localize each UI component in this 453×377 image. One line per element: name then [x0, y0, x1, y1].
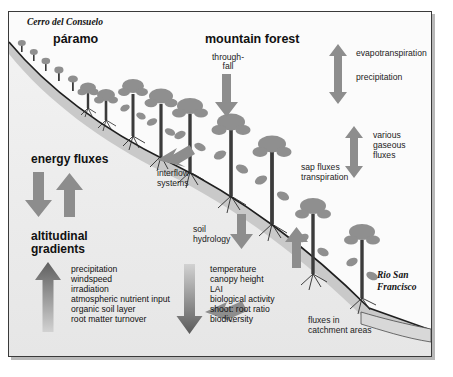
place-label-rio-san-line2: Francisco — [377, 282, 417, 293]
label-soil-hydrology-line2: hydrology — [193, 235, 230, 245]
gradient-increasing-item: windspeed — [71, 274, 170, 284]
gradient-increasing-item: irradiation — [71, 284, 170, 294]
gradient-decreasing-item: shoot: root ratio — [210, 304, 274, 314]
zone-label-paramo: páramo — [53, 32, 98, 46]
gradient-increasing-item: atmospheric nutrient input — [71, 294, 170, 304]
diagram-frame: Cerro del Consuelo páramo mountain fores… — [8, 11, 432, 357]
label-catchment-fluxes-line2: catchment areas — [308, 326, 372, 336]
evapotranspiration-precipitation-arrow — [329, 44, 347, 104]
throughfall-arrow — [215, 74, 238, 117]
label-transpiration: transpiration — [301, 173, 348, 183]
label-altitudinal-line2: gradients — [31, 243, 85, 256]
place-label-cerro-del-consuelo: Cerro del Consuelo — [27, 17, 103, 28]
label-evapotranspiration: evapotranspiration — [356, 49, 427, 59]
paramo-shrub — [30, 49, 38, 61]
gradient-increasing-item: organic soil layer — [71, 304, 170, 314]
paramo-shrub — [18, 40, 26, 52]
label-various-gaseous-fluxes-line3: fluxes — [373, 151, 395, 161]
label-precipitation: precipitation — [356, 73, 402, 83]
paramo-shrub — [68, 75, 78, 91]
gradient-increasing-item: root matter turnover — [71, 314, 170, 324]
gradient-decreasing-item: biodiversity — [210, 314, 274, 324]
figure-ecological-cross-section: Cerro del Consuelo páramo mountain fores… — [0, 0, 453, 377]
gradient-increasing-item: precipitation — [71, 264, 170, 274]
zone-label-mountain-forest: mountain forest — [205, 32, 299, 46]
gradient-decreasing-item: temperature — [210, 264, 274, 274]
gradient-increasing-list: precipitation windspeed irradiation atmo… — [71, 264, 170, 324]
label-interflow-line2: systems — [157, 179, 189, 189]
gradient-decreasing-list: temperature canopy height LAI biological… — [210, 264, 274, 324]
figure-caption — [14, 366, 444, 377]
place-label-rio-san-line1: Rio San — [377, 270, 408, 281]
label-energy-fluxes: energy fluxes — [31, 153, 108, 166]
paramo-shrub — [42, 58, 51, 71]
gaseous-fluxes-arrow — [345, 126, 363, 178]
gradient-decreasing-item: canopy height — [210, 274, 274, 284]
gradient-decreasing-item: LAI — [210, 284, 274, 294]
paramo-shrub — [54, 67, 63, 81]
gradient-decreasing-item: biological activity — [210, 294, 274, 304]
label-throughfall-line2: fall — [199, 62, 257, 72]
